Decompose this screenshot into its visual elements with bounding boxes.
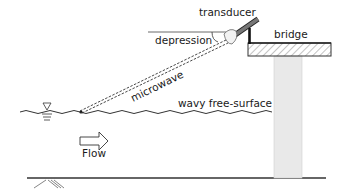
bridge-deck [248, 43, 331, 56]
microwave-gauge-diagram: transducer bridge depression microwave w… [0, 0, 347, 196]
depression-angle-arc [212, 32, 218, 42]
label-bridge: bridge [274, 28, 308, 40]
label-free-surface: wavy free-surface [178, 97, 272, 109]
channel-bed [27, 178, 326, 188]
free-surface-line [20, 111, 272, 114]
bridge-pillar [274, 56, 302, 178]
label-transducer: transducer [199, 6, 257, 18]
water-level-icon [42, 103, 52, 120]
transducer-icon [224, 19, 258, 44]
ground-hatch-icon [34, 180, 64, 188]
label-flow: Flow [82, 147, 106, 159]
label-depression: depression [155, 34, 212, 46]
